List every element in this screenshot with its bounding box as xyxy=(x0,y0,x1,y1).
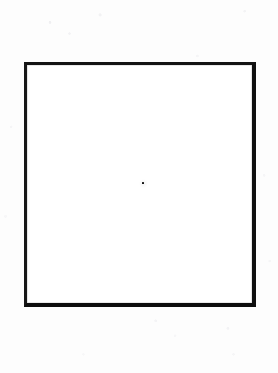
figure-canvas xyxy=(0,0,278,373)
square-stroke-bleed xyxy=(27,65,252,303)
center-dot-mark xyxy=(142,182,144,184)
square-outline-shape xyxy=(24,62,256,307)
